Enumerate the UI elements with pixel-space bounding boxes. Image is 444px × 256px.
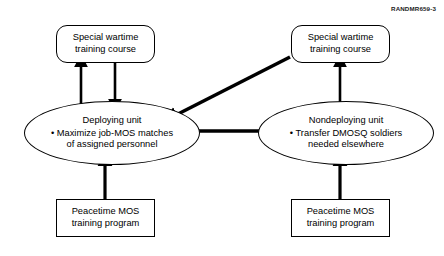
node-nondeploying-unit: Nondeploying unit • Transfer DMOSQ soldi… [258, 101, 434, 165]
node-label: Peacetime MOS training program [72, 206, 140, 229]
node-peacetime-mos-training-program-left: Peacetime MOS training program [56, 199, 155, 237]
node-label: Special wartime training course [308, 32, 374, 55]
figure-source-label: RANDMR659-3 [391, 5, 436, 12]
node-bullet-text: • Maximize job-MOS matches of assigned p… [51, 128, 173, 151]
diagram-canvas: RANDMR659-3 Special wartime training cou… [0, 0, 444, 256]
node-special-wartime-training-course-right: Special wartime training course [291, 25, 390, 63]
node-label: Special wartime training course [73, 32, 139, 55]
node-title: Deploying unit [83, 115, 142, 127]
node-label: Peacetime MOS training program [307, 206, 375, 229]
node-special-wartime-training-course-left: Special wartime training course [56, 25, 155, 63]
node-title: Nondeploying unit [309, 115, 383, 127]
node-bullet-text: • Transfer DMOSQ soldiers needed elsewhe… [290, 128, 402, 151]
arrow-wartime-right-to-deploying [176, 57, 290, 115]
node-deploying-unit: Deploying unit • Maximize job-MOS matche… [24, 101, 200, 165]
node-peacetime-mos-training-program-right: Peacetime MOS training program [291, 199, 390, 237]
